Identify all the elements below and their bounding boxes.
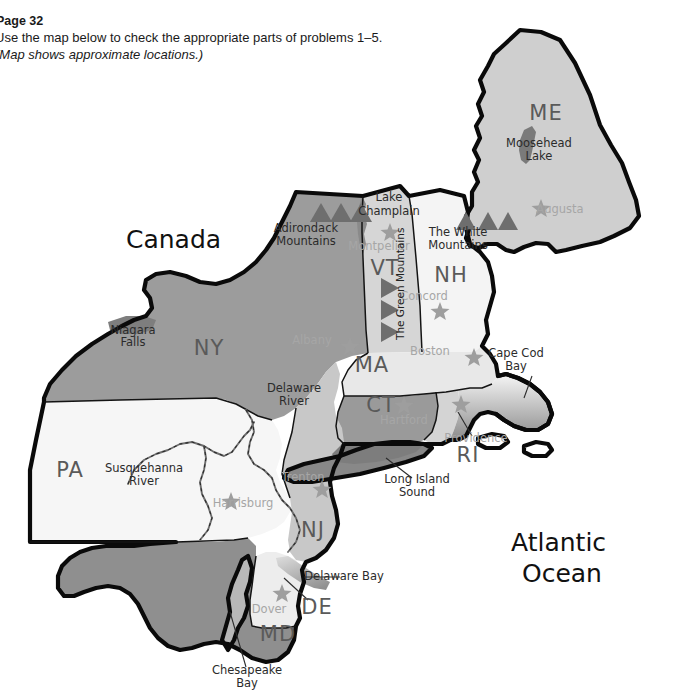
city-label-dover: Dover (252, 602, 287, 616)
state-abbr-new-jersey: NJ (301, 518, 325, 542)
feature-label-susquehanna-river-line1: Susquehanna (105, 461, 183, 475)
region-label-atlantic-ocean-line1: Atlantic (511, 528, 606, 557)
city-label-albany: Albany (292, 333, 332, 347)
green-mountains-label: The Green Mountains (394, 228, 406, 341)
feature-label-lake-champlain-line1: Lake (376, 190, 403, 204)
feature-label-adirondack-mountains-line1: Adirondack (274, 221, 339, 235)
state-abbr-new-york: NY (194, 336, 225, 360)
feature-label-delaware-bay: Delaware Bay (304, 569, 384, 583)
state-abbr-delaware: DE (301, 595, 332, 619)
nantucket-island (524, 442, 552, 456)
feature-label-chesapeake-bay-line1: Chesapeake (212, 663, 282, 677)
feature-label-moosehead-lake-line1: Moosehead (506, 136, 572, 150)
region-label-atlantic-ocean-line2: Ocean (522, 559, 602, 588)
state-abbr-new-hampshire: NH (434, 263, 468, 287)
city-label-harrisburg: Harrisburg (213, 496, 274, 510)
state-abbr-massachusetts: MA (355, 353, 389, 377)
feature-label-adirondack-mountains-line2: Mountains (276, 234, 336, 248)
city-label-trenton: Trenton (280, 470, 324, 484)
city-label-providence: Providence (444, 431, 507, 445)
feature-label-lake-champlain-line2: Champlain (358, 204, 420, 218)
feature-label-niagara-falls-line2: Falls (121, 335, 146, 349)
feature-label-long-island-sound-line2: Sound (399, 485, 435, 499)
feature-label-cape-cod-bay-line1: Cape Cod (488, 346, 543, 360)
feature-label-white-mountains-line1: The White (428, 225, 487, 239)
state-abbr-pennsylvania: PA (56, 458, 84, 482)
state-abbr-maryland: MD (260, 622, 296, 646)
state-abbr-maine: ME (529, 101, 562, 125)
feature-label-chesapeake-bay-line2: Bay (236, 676, 258, 690)
feature-label-moosehead-lake-line2: Lake (526, 149, 553, 163)
state-abbr-rhode-island: RI (457, 443, 480, 467)
feature-label-white-mountains-line2: Mountains (428, 238, 488, 252)
region-label-canada: Canada (126, 225, 221, 254)
feature-label-cape-cod-bay-line2: Bay (505, 359, 527, 373)
map-figure: CanadaAtlanticOcean MEVTNHNYMACTRIPANJDE… (0, 0, 681, 698)
city-label-concord: Concord (400, 289, 448, 303)
city-label-boston: Boston (410, 344, 450, 358)
city-label-hartford: Hartford (380, 413, 428, 427)
city-label-augusta: Augusta (536, 202, 583, 216)
feature-label-susquehanna-river-line2: River (129, 474, 159, 488)
feature-label-long-island-sound-line1: Long Island (384, 472, 450, 486)
feature-label-delaware-river-line2: River (279, 394, 309, 408)
feature-label-delaware-river-line1: Delaware (267, 381, 321, 395)
